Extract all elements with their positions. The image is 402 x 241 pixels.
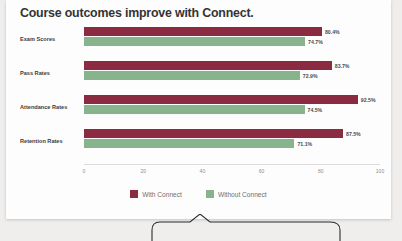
x-tick-label: 100: [376, 168, 384, 174]
bar-value-without-connect-attendance-rates: 74.5%: [305, 107, 323, 113]
chart-card: Course outcomes improve with Connect. Ex…: [6, 0, 391, 219]
x-tick-label: 20: [140, 168, 146, 174]
bar-without-connect-retention-rates: [84, 139, 294, 148]
legend-item-without-connect[interactable]: Without Connect: [206, 190, 267, 198]
x-tick-label: 40: [200, 168, 206, 174]
category-label-exam-scores: Exam Scores: [20, 36, 82, 42]
chart-plot-area: Exam Scores 80.4% 74.7% Pass Rates 83.7%…: [20, 24, 380, 180]
bar-value-with-connect-exam-scores: 80.4%: [322, 29, 340, 35]
chart-title: Course outcomes improve with Connect.: [20, 6, 254, 20]
legend-label-without-connect: Without Connect: [218, 191, 267, 198]
bar-track: 87.5%: [84, 129, 380, 138]
callout-bubble: [0, 214, 402, 241]
x-tick-label: 60: [259, 168, 265, 174]
category-label-pass-rates: Pass Rates: [20, 70, 82, 76]
bar-without-connect-attendance-rates: [84, 105, 305, 114]
x-axis-line: [84, 164, 380, 165]
bar-track: 71.1%: [84, 139, 380, 148]
bar-without-connect-pass-rates: [84, 71, 300, 80]
bar-value-without-connect-retention-rates: 71.1%: [294, 141, 312, 147]
category-label-retention-rates: Retention Rates: [20, 138, 82, 144]
chart-legend: With Connect Without Connect: [6, 190, 391, 198]
x-tick-label: 0: [83, 168, 86, 174]
bar-track: 83.7%: [84, 61, 380, 70]
bar-with-connect-exam-scores: [84, 27, 322, 36]
bar-track: 74.5%: [84, 105, 380, 114]
callout-outline: [152, 214, 340, 241]
bar-value-without-connect-exam-scores: 74.7%: [305, 39, 323, 45]
bar-value-with-connect-pass-rates: 83.7%: [332, 63, 350, 69]
bar-value-with-connect-retention-rates: 87.5%: [343, 131, 361, 137]
x-tick-label: 80: [318, 168, 324, 174]
legend-swatch-with-connect: [130, 190, 138, 198]
legend-label-with-connect: With Connect: [142, 191, 182, 198]
bar-with-connect-pass-rates: [84, 61, 332, 70]
bar-value-with-connect-attendance-rates: 92.5%: [358, 97, 376, 103]
bar-track: 72.9%: [84, 71, 380, 80]
bar-track: 92.5%: [84, 95, 380, 104]
category-label-attendance-rates: Attendance Rates: [20, 104, 82, 110]
legend-item-with-connect[interactable]: With Connect: [130, 190, 182, 198]
bar-without-connect-exam-scores: [84, 37, 305, 46]
bar-with-connect-attendance-rates: [84, 95, 358, 104]
bar-with-connect-retention-rates: [84, 129, 343, 138]
bar-track: 80.4%: [84, 27, 380, 36]
bar-track: 74.7%: [84, 37, 380, 46]
legend-swatch-without-connect: [206, 190, 214, 198]
bar-value-without-connect-pass-rates: 72.9%: [300, 73, 318, 79]
